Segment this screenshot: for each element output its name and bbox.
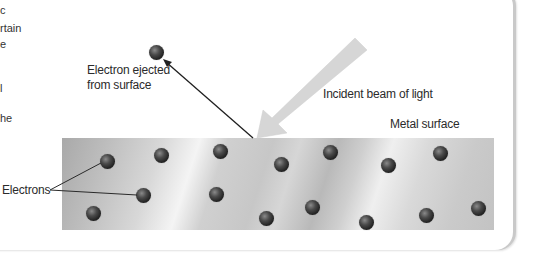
label-electrons: Electrons xyxy=(2,183,50,197)
ejection-arrow-icon xyxy=(163,59,253,138)
label-electron-ejected-line2: from surface xyxy=(87,78,151,92)
label-electron-ejected-line1: Electron ejected xyxy=(87,63,170,77)
label-metal-surface: Metal surface xyxy=(390,117,459,131)
electrons-leader-lines xyxy=(50,163,137,195)
ejected-electron xyxy=(149,45,164,60)
label-incident-beam: Incident beam of light xyxy=(323,87,433,101)
